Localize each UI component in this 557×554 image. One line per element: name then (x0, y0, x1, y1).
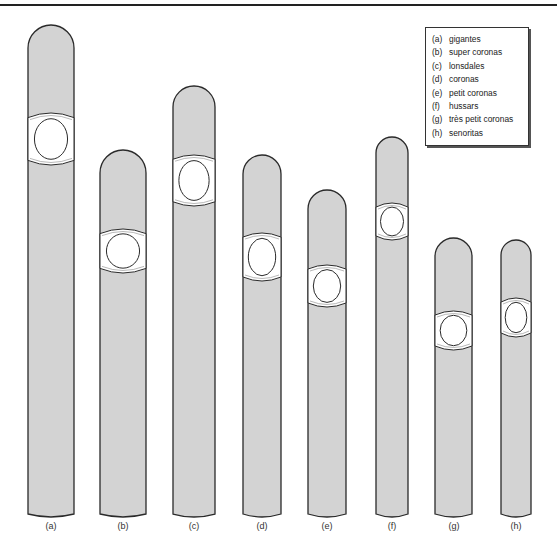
legend-item-b: (b)super coronas (432, 46, 528, 59)
legend-item-e: (e)petit coronas (432, 87, 528, 100)
cigar-g (435, 238, 472, 517)
band-medallion (380, 207, 403, 236)
legend-item-g: (g)très petit coronas (432, 113, 528, 126)
label-d: (d) (257, 521, 268, 531)
legend-item-h: (h)senoritas (432, 127, 528, 140)
label-b: (b) (118, 521, 129, 531)
legend-item-c: (c)lonsdales (432, 60, 528, 73)
band-medallion (505, 302, 527, 332)
band-medallion (179, 161, 209, 201)
cigar-a (28, 25, 74, 517)
legend-item-f: (f)hussars (432, 100, 528, 113)
label-g: (g) (449, 521, 460, 531)
band-medallion (440, 315, 467, 345)
cigar-h (501, 240, 531, 517)
label-c: (c) (189, 521, 200, 531)
label-h: (h) (511, 521, 522, 531)
label-f: (f) (388, 521, 397, 531)
label-e: (e) (322, 521, 333, 531)
cigar-e (308, 190, 346, 517)
band-medallion (106, 234, 139, 268)
band-medallion (34, 119, 67, 160)
cigar-f (376, 137, 408, 517)
cigar-c (173, 86, 215, 517)
cigar-d (243, 155, 281, 517)
legend: (a)gigantes (b)super coronas (c)lonsdale… (425, 27, 529, 146)
cigar-b (100, 150, 146, 517)
band-medallion (313, 270, 340, 303)
legend-item-d: (d)coronas (432, 73, 528, 86)
band-medallion (248, 238, 275, 275)
legend-item-a: (a)gigantes (432, 33, 528, 46)
label-a: (a) (46, 521, 57, 531)
